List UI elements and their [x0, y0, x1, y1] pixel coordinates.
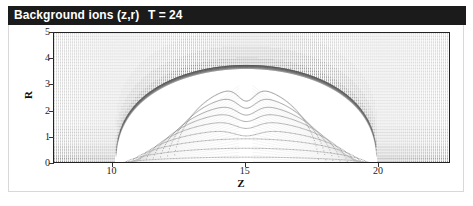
y-axis-title: R — [22, 91, 34, 99]
x-axis-title-text: Z — [237, 177, 244, 189]
y-tick-mark — [49, 58, 54, 59]
plot-figure: 543210 101520 R Z — [8, 25, 464, 192]
y-tick-mark — [49, 137, 54, 138]
plot-title: Background ions (z,r) — [14, 8, 139, 22]
y-tick-label: 4 — [36, 52, 50, 63]
plot-area — [53, 32, 450, 163]
y-tick-mark — [49, 111, 54, 112]
y-tick-label: 5 — [36, 26, 50, 37]
y-tick-label: 2 — [36, 105, 50, 116]
screenshot-root: Background ions (z,r) T = 24 543210 1015… — [0, 0, 473, 206]
plot-title-bar: Background ions (z,r) T = 24 — [8, 6, 466, 25]
y-tick-label: 0 — [36, 157, 50, 168]
x-tick-mark — [245, 163, 246, 167]
x-tick-mark — [378, 163, 379, 167]
x-tick-mark — [112, 163, 113, 167]
y-tick-mark — [49, 84, 54, 85]
y-tick-label: 1 — [36, 131, 50, 142]
x-axis-title: Z — [8, 177, 464, 189]
y-tick-label: 3 — [36, 78, 50, 89]
particle-scatter-canvas — [54, 33, 450, 163]
y-tick-mark — [49, 32, 54, 33]
time-annotation: T = 24 — [148, 8, 182, 22]
y-tick-mark — [49, 163, 54, 164]
y-axis-tick-labels: 543210 — [34, 32, 50, 163]
